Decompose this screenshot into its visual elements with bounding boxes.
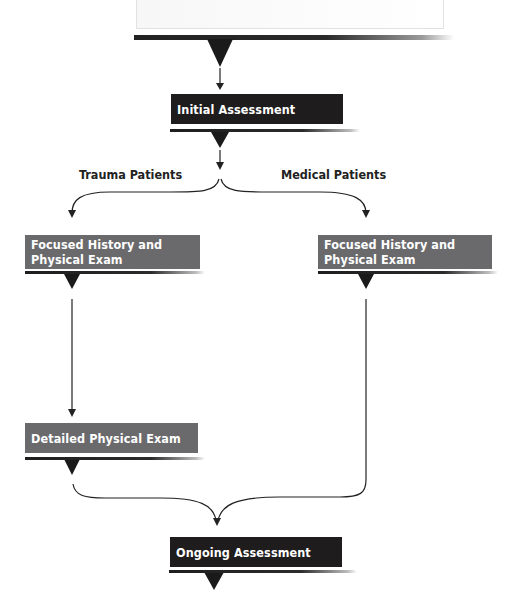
node-label: Ongoing Assessment	[176, 545, 311, 560]
node-initial-assessment: Initial Assessment	[171, 94, 343, 124]
node-underline	[169, 570, 357, 573]
pointer-triangle-initial	[211, 132, 229, 148]
branch-label-trauma: Trauma Patients	[79, 167, 182, 182]
node-label: Initial Assessment	[177, 102, 295, 117]
node-label: Detailed Physical Exam	[31, 431, 181, 446]
node-underline	[25, 271, 205, 274]
node-focused-history-medical: Focused History and Physical Exam	[318, 235, 492, 269]
node-ongoing-assessment: Ongoing Assessment	[170, 537, 342, 567]
pointer-triangle-focused-trauma	[64, 274, 80, 289]
branch-label-medical: Medical Patients	[281, 167, 386, 182]
flow-connectors	[0, 0, 520, 613]
node-focused-history-trauma: Focused History and Physical Exam	[25, 235, 200, 269]
pointer-triangle-top	[207, 39, 233, 67]
pointer-triangle-ongoing	[204, 572, 224, 590]
node-label: Focused History and Physical Exam	[324, 237, 474, 267]
pointer-triangle-focused-medical	[358, 274, 374, 289]
pointer-triangle-detailed	[64, 459, 80, 475]
node-label: Focused History and Physical Exam	[31, 237, 181, 267]
node-underline	[25, 457, 205, 460]
node-underline	[170, 129, 360, 132]
node-detailed-physical-exam: Detailed Physical Exam	[25, 423, 198, 453]
node-underline	[318, 271, 498, 274]
